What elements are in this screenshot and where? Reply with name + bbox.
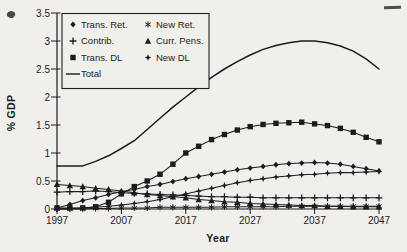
scan-artifact-top-right <box>384 6 401 10</box>
x-tick-label: 2017 <box>175 215 198 226</box>
y-tick-label: 3.5 <box>36 8 50 19</box>
x-tick-label: 2037 <box>303 215 326 226</box>
x-axis-ticks: 199720072017202720372047 <box>46 209 391 226</box>
series-trans-ret-markers <box>54 160 381 211</box>
y-tick-label: 2 <box>44 92 50 103</box>
x-axis-title: Year <box>57 232 379 244</box>
series-contrib-markers <box>54 188 383 202</box>
y-tick-label: 0.5 <box>36 176 50 187</box>
legend-label: Contrib. <box>81 35 114 46</box>
legend-label: New DL <box>156 52 190 63</box>
y-tick-label: 3 <box>44 36 50 47</box>
pension-cost-line-chart: 00.511.522.533.5199720072017202720372047… <box>0 0 407 252</box>
legend-label: Total <box>81 68 101 79</box>
y-tick-label: 1.5 <box>36 120 50 131</box>
legend-label: Trans. DL <box>81 52 122 63</box>
legend: Trans. Ret.Contrib.Trans. DLTotalNew Ret… <box>62 14 209 89</box>
legend-label: Trans. Ret. <box>81 19 128 30</box>
y-tick-label: 1 <box>44 148 50 159</box>
y-tick-label: 0 <box>44 204 50 215</box>
legend-label: New Ret. <box>156 19 195 30</box>
series-curr-pens-markers <box>54 181 382 209</box>
y-axis-title: % GDP <box>5 85 19 141</box>
legend-label: Curr. Pens. <box>156 35 204 46</box>
x-tick-label: 2047 <box>368 215 391 226</box>
y-tick-label: 2.5 <box>36 64 50 75</box>
x-tick-label: 2007 <box>110 215 133 226</box>
x-tick-label: 1997 <box>46 215 69 226</box>
x-tick-label: 2027 <box>239 215 262 226</box>
chart-canvas: 00.511.522.533.5199720072017202720372047… <box>0 0 407 252</box>
